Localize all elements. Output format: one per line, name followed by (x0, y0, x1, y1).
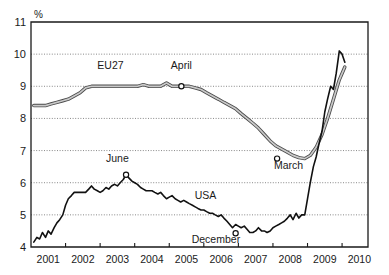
unemployment-rate-chart: 4567891011 20012002200320042005200620072… (0, 0, 389, 275)
ytick-label-6: 6 (20, 177, 26, 189)
annotation-label-april: April (171, 59, 192, 71)
plot-frame (31, 22, 368, 247)
xtick-label-2008: 2008 (279, 253, 303, 265)
y-axis-unit-label: % (34, 9, 43, 20)
xtick-label-2004: 2004 (140, 253, 164, 265)
xtick-label-2009: 2009 (313, 253, 337, 265)
x-axis-tick-labels: 2001200220032004200520062007200820092010 (37, 253, 372, 265)
xtick-label-2001: 2001 (37, 253, 61, 265)
series-line-eu27 (34, 67, 345, 159)
annotation-label-december: December (192, 233, 241, 245)
ytick-label-7: 7 (20, 145, 26, 157)
marker-april (179, 84, 184, 89)
series-line-eu27-border (34, 67, 345, 159)
ytick-label-5: 5 (20, 209, 26, 221)
xtick-label-2007: 2007 (244, 253, 268, 265)
ytick-label-9: 9 (20, 80, 26, 92)
annotation-label-eu27: EU27 (97, 59, 123, 71)
axes-frame (31, 22, 368, 247)
ytick-label-8: 8 (20, 112, 26, 124)
xtick-label-2010: 2010 (348, 253, 372, 265)
annotation-markers (123, 84, 279, 236)
annotation-label-usa: USA (195, 189, 217, 201)
xtick-label-2005: 2005 (175, 253, 199, 265)
ytick-label-10: 10 (14, 48, 26, 60)
annotation-label-march: March (274, 159, 303, 171)
chart-canvas: 4567891011 20012002200320042005200620072… (0, 0, 389, 275)
marker-june (123, 172, 128, 177)
ytick-label-4: 4 (20, 241, 26, 253)
xtick-label-2002: 2002 (71, 253, 95, 265)
series-line-usa (34, 51, 345, 242)
xtick-label-2006: 2006 (209, 253, 233, 265)
annotation-label-june: June (106, 152, 129, 164)
y-axis-tick-labels: 4567891011 (14, 16, 26, 253)
xtick-label-2003: 2003 (106, 253, 130, 265)
data-series (34, 51, 345, 242)
ytick-label-11: 11 (15, 16, 26, 28)
